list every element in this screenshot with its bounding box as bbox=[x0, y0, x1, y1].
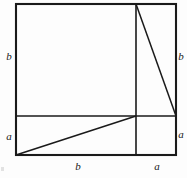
side-label-left-upper: b bbox=[6, 51, 12, 62]
side-label-right-upper: b bbox=[178, 51, 184, 62]
scan-artifact-speck bbox=[1, 167, 4, 171]
side-label-right-lower: a bbox=[178, 129, 184, 140]
geometric-figure: b a b a b a bbox=[0, 0, 187, 178]
side-label-bottom-left: b bbox=[75, 161, 81, 172]
figure-canvas bbox=[0, 0, 187, 178]
side-label-left-lower: a bbox=[6, 131, 12, 142]
figure-strokes bbox=[16, 4, 176, 155]
diagonal-upper-right-line bbox=[136, 4, 176, 116]
outer-square-shape bbox=[16, 4, 176, 155]
diagonal-lower-left-line bbox=[16, 116, 136, 155]
side-label-bottom-right: a bbox=[154, 161, 160, 172]
